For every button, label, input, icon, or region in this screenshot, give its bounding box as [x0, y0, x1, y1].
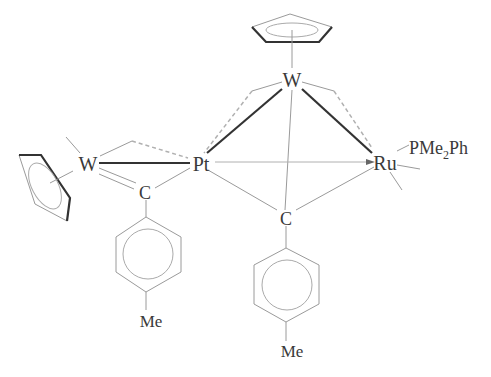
bond-ru-c-center: [296, 167, 374, 210]
bond-w-top-co-right: [302, 82, 334, 91]
bond-w-top-co-left: [252, 82, 282, 91]
ligand-pme2ph: PMe2Ph: [409, 138, 468, 162]
atom-me-center: Me: [281, 342, 304, 361]
bond-w-left-co: [100, 141, 132, 156]
bond-w-left-ligand: [66, 137, 80, 153]
bond-w-top-pt: [207, 89, 282, 153]
atom-w-top: W: [283, 69, 302, 91]
bond-ru-p: [397, 145, 409, 151]
atom-pt: Pt: [193, 153, 210, 175]
cyclopentadienyl-ring-left: [19, 155, 70, 221]
atom-c-center: C: [280, 209, 292, 229]
atom-w-left: W: [79, 153, 98, 175]
bond-pt-c-center: [208, 170, 277, 210]
bond-ru-ligand-2: [390, 172, 402, 190]
bond-ru-ligand-1: [397, 165, 420, 169]
bond-co-ru-dashed: [334, 91, 372, 148]
bond-c-pt: [155, 168, 190, 188]
benzene-ring-center: [254, 248, 319, 322]
bond-w-top-c-center: [285, 90, 292, 210]
bond-w-c-double-2: [99, 174, 134, 189]
bond-co-pt-dashed: [132, 141, 188, 158]
atom-me-left: Me: [140, 312, 163, 331]
bond-w-top-ru: [302, 89, 372, 153]
benzene-ring-left: [116, 217, 181, 292]
atom-c-left: C: [139, 183, 151, 203]
atom-ru: Ru: [373, 152, 396, 174]
bond-w-c-double-1: [99, 168, 136, 183]
chemical-structure-diagram: W W Pt Ru C C Me Me PMe2Ph: [0, 0, 491, 377]
